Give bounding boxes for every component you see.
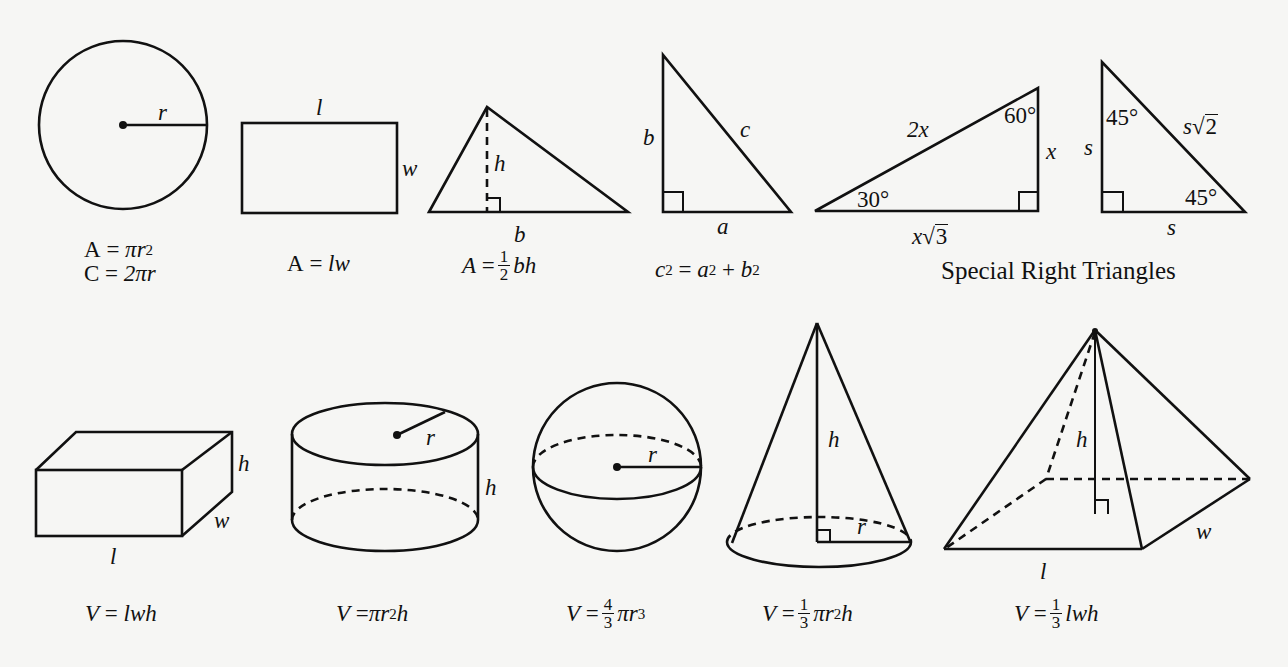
formula-lhs: A — [287, 252, 304, 275]
formula-eq: = — [105, 602, 118, 625]
formula-rhs: bh — [513, 254, 536, 277]
cone-radius-label: r — [857, 515, 866, 538]
formula-lhs: A — [84, 238, 101, 261]
special-30-60-90-angle-60-label: 60° — [1004, 104, 1036, 127]
formula-rhs: lw — [328, 252, 350, 275]
prism-width-label: w — [214, 509, 229, 532]
formula-lhs: C — [84, 262, 99, 285]
formula-rhs: πr — [125, 238, 145, 261]
pyramid-volume-formula: V = 13 lwh — [1014, 596, 1099, 631]
circle-area-formula: A = πr2 — [84, 238, 153, 261]
pyramid-figure — [944, 328, 1250, 549]
fraction: 43 — [602, 596, 615, 631]
formula-eq: = — [106, 238, 119, 261]
sphere-figure — [533, 383, 701, 551]
special-45-45-90-angle-top-label: 45° — [1106, 106, 1138, 129]
pyramid-width-label: w — [1196, 520, 1211, 543]
right-triangle-figure — [663, 55, 791, 212]
formula-eq: = — [586, 602, 599, 625]
formula-lhs: V — [566, 602, 580, 625]
pyramid-length-label: l — [1040, 560, 1046, 583]
triangle-figure — [429, 107, 628, 212]
special-30-60-90-angle-30-label: 30° — [857, 188, 889, 211]
formula-eq: = — [678, 258, 691, 281]
formula-a: a — [697, 258, 709, 281]
fraction-numerator: 4 — [602, 596, 615, 614]
fraction-numerator: 1 — [798, 596, 811, 614]
triangle-height-label: h — [494, 152, 506, 175]
right-triangle-leg-a-label: a — [717, 215, 729, 238]
formula-lhs: A — [462, 254, 476, 277]
special-30-60-90-long-leg-label: x√3 — [912, 224, 948, 248]
fraction-denominator: 3 — [1050, 614, 1063, 631]
cylinder-radius-label: r — [426, 426, 435, 449]
fraction-denominator: 2 — [498, 266, 511, 283]
formula-c: c — [655, 258, 665, 281]
sphere-volume-formula: V = 43 πr3 — [566, 596, 645, 631]
right-triangle-leg-b-label: b — [643, 126, 655, 149]
sphere-radius-label: r — [648, 443, 657, 466]
formula-h: h — [397, 602, 409, 625]
prism-volume-formula: V = lwh — [85, 602, 157, 625]
special-45-45-90-figure — [1102, 62, 1245, 212]
geometry-diagram — [0, 0, 1288, 667]
sqrt-icon: √ — [1192, 115, 1205, 138]
cone-figure — [727, 323, 911, 567]
fraction: 12 — [498, 248, 511, 283]
formula-eq: = — [105, 262, 118, 285]
sqrt-icon: √ — [922, 225, 935, 248]
circle-circumference-formula: C = 2πr — [84, 262, 156, 285]
formula-eq: = — [356, 602, 369, 625]
cone-height-label: h — [828, 428, 840, 451]
rectangle-width-label: w — [402, 157, 417, 180]
radicand: 3 — [935, 224, 949, 248]
rectangular-prism-figure — [36, 432, 232, 536]
formula-lhs: V — [85, 602, 99, 625]
radical-coefficient: x — [912, 225, 922, 248]
circle-radius-label: r — [158, 101, 167, 124]
cylinder-figure — [292, 403, 478, 551]
pythagorean-formula: c2 = a2 + b2 — [655, 258, 760, 281]
right-triangle-hypotenuse-label: c — [740, 118, 750, 141]
special-45-45-90-angle-bottom-label: 45° — [1185, 186, 1217, 209]
formula-eq: = — [482, 254, 495, 277]
formula-h: h — [841, 602, 853, 625]
cylinder-height-label: h — [485, 476, 497, 499]
formula-plus: + — [722, 258, 735, 281]
rectangle-figure — [242, 123, 397, 213]
cylinder-volume-formula: V =πr2h — [336, 602, 408, 625]
prism-length-label: l — [110, 545, 116, 568]
rectangle-length-label: l — [316, 96, 322, 119]
special-45-45-90-hypotenuse-label: s√2 — [1183, 114, 1218, 138]
formula-eq: = — [782, 602, 795, 625]
formula-lhs: V — [762, 602, 776, 625]
formula-rhs: lwh — [1065, 602, 1098, 625]
formula-lhs: V — [1014, 602, 1028, 625]
formula-eq: = — [309, 252, 322, 275]
circle-figure — [39, 41, 207, 209]
special-30-60-90-short-leg-label: x — [1046, 140, 1056, 163]
formula-pi: π — [617, 602, 629, 625]
fraction-numerator: 1 — [1050, 596, 1063, 614]
fraction: 13 — [798, 596, 811, 631]
triangle-area-formula: A = 12 bh — [462, 248, 536, 283]
formula-eq: = — [1034, 602, 1047, 625]
radicand: 2 — [1205, 114, 1219, 138]
formula-b: b — [741, 258, 753, 281]
triangle-base-label: b — [514, 223, 526, 246]
formula-pi: π — [369, 602, 381, 625]
special-right-triangles-caption: Special Right Triangles — [941, 258, 1176, 283]
formula-lhs: V — [336, 602, 350, 625]
formula-r: r — [629, 602, 638, 625]
special-45-45-90-vertical-leg-label: s — [1084, 136, 1093, 159]
rectangle-area-formula: A = lw — [287, 252, 350, 275]
pyramid-height-label: h — [1076, 428, 1088, 451]
fraction-numerator: 1 — [498, 248, 511, 266]
formula-r: r — [825, 602, 834, 625]
formula-pi: π — [813, 602, 825, 625]
fraction: 13 — [1050, 596, 1063, 631]
cone-volume-formula: V = 13 πr2h — [762, 596, 853, 631]
fraction-denominator: 3 — [602, 614, 615, 631]
special-45-45-90-horizontal-leg-label: s — [1167, 216, 1176, 239]
prism-height-label: h — [238, 452, 250, 475]
